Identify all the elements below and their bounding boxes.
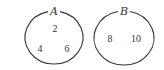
set-a: A 2 4 6	[25, 5, 83, 64]
set-b: B 8 10	[94, 5, 154, 65]
set-b-element: 8	[108, 33, 113, 44]
set-a-label: A	[49, 5, 58, 18]
set-a-element: 6	[65, 43, 70, 54]
set-b-outline	[94, 12, 154, 65]
set-a-element: 2	[53, 23, 58, 34]
set-b-label: B	[119, 5, 128, 18]
set-b-element: 10	[131, 33, 141, 44]
set-a-outline	[25, 12, 83, 64]
set-a-element: 4	[38, 43, 43, 54]
venn-diagram: A 2 4 6 B 8 10	[0, 0, 164, 70]
